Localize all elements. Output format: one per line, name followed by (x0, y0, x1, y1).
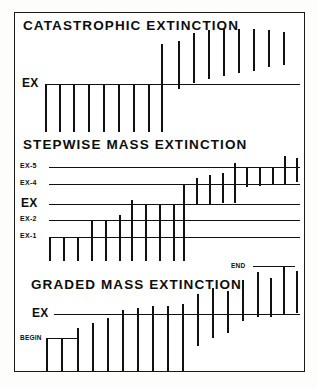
range-bar (92, 323, 94, 371)
extinction-models-figure: CATASTROPHIC EXTINCTION EX ST (0, 0, 317, 388)
ex2-label: EX-2 (20, 215, 37, 222)
range-bar (209, 175, 211, 204)
range-bar (137, 308, 139, 371)
ex-label-graded: EX (32, 306, 49, 320)
ex4-label: EX-4 (20, 179, 37, 186)
range-bar-crossing (227, 291, 229, 333)
panel-title-catastrophic: CATASTROPHIC EXTINCTION (23, 18, 239, 33)
ex3-label: EX (21, 196, 38, 210)
range-bar (242, 280, 244, 321)
range-bar (131, 200, 133, 261)
range-bar (107, 318, 109, 371)
range-bar (283, 32, 285, 65)
ex4-datum-line (49, 184, 300, 185)
range-bar (133, 84, 135, 132)
range-bar (159, 204, 161, 261)
range-bar (208, 30, 210, 79)
range-bar (63, 237, 65, 261)
range-bar (152, 306, 154, 371)
range-bar (178, 41, 180, 89)
figure-frame: CATASTROPHIC EXTINCTION EX ST (14, 12, 305, 372)
range-bar (259, 167, 261, 186)
range-bar-crossing (161, 44, 163, 132)
range-bar (193, 33, 195, 83)
panel-title-graded: GRADED MASS EXTINCTION (31, 277, 242, 292)
range-bar (246, 167, 248, 187)
ex-datum-line-catastrophic (45, 84, 300, 85)
range-bar (296, 271, 298, 313)
range-bar (77, 328, 79, 371)
range-bar (77, 237, 79, 261)
range-bar (119, 215, 121, 261)
range-bar (268, 30, 270, 67)
range-bar (91, 220, 93, 261)
range-bar (59, 84, 61, 132)
range-bar (122, 310, 124, 371)
range-bar-crossing (212, 288, 214, 338)
range-bar (148, 84, 150, 132)
range-bar (45, 84, 47, 132)
range-bar (272, 167, 274, 185)
range-bar-crossing (234, 163, 236, 203)
range-bar (73, 84, 75, 132)
range-bar (257, 272, 259, 317)
range-bar (88, 84, 90, 132)
range-bar (46, 338, 48, 371)
range-bar (270, 278, 272, 317)
ex5-label: EX-5 (20, 162, 37, 169)
range-bar-crossing (183, 184, 185, 261)
end-leader-line (253, 266, 295, 267)
ex-label-catastrophic: EX (22, 76, 39, 90)
range-bar (103, 84, 105, 132)
range-bar (238, 29, 240, 73)
range-bar (118, 84, 120, 132)
range-bar-crossing (182, 304, 184, 371)
range-bar (283, 266, 285, 314)
range-bar (296, 158, 298, 182)
range-bar (223, 29, 225, 76)
range-bar (284, 156, 286, 185)
ex5-datum-line (49, 167, 300, 168)
panel-title-stepwise: STEPWISE MASS EXTINCTION (23, 137, 247, 152)
begin-label: BEGIN (20, 334, 42, 341)
ex1-label: EX-1 (20, 232, 37, 239)
range-bar (222, 173, 224, 203)
range-bar (173, 204, 175, 261)
range-bar (49, 237, 51, 261)
range-bar (253, 29, 255, 71)
range-bar-crossing (197, 294, 199, 346)
end-label: END (231, 262, 245, 269)
ex-datum-line-graded (54, 314, 300, 315)
range-bar (167, 306, 169, 371)
range-bar (145, 204, 147, 261)
range-bar (61, 338, 63, 371)
range-bar (105, 220, 107, 261)
range-bar (196, 178, 198, 205)
